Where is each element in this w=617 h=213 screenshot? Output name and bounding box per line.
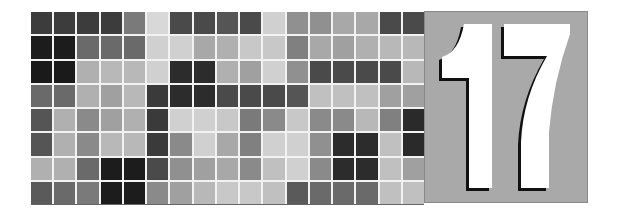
mosaic-cell [217,85,238,107]
mosaic-cell [356,12,377,34]
mosaic-cell [170,182,191,204]
mosaic-cell [240,85,261,107]
mosaic-cell [217,158,238,180]
mosaic-cell [333,61,354,83]
mosaic-cell [217,182,238,204]
mosaic-cell [217,61,238,83]
mosaic-cell [240,158,261,180]
mosaic-cell [217,36,238,58]
mosaic-cell [310,36,331,58]
mosaic-cell [77,36,98,58]
mosaic-cell [287,133,308,155]
mosaic-cell [194,36,215,58]
mosaic-cell [403,61,424,83]
mosaic-cell [240,36,261,58]
mosaic-cell [287,85,308,107]
mosaic-cell [147,109,168,131]
mosaic-cell [310,182,331,204]
mosaic-cell [263,133,284,155]
mosaic-cell [263,85,284,107]
mosaic-cell [380,12,401,34]
mosaic-cell [194,109,215,131]
mosaic-cell [147,182,168,204]
mosaic-cell [356,133,377,155]
mosaic-cell [194,85,215,107]
mosaic-cell [124,158,145,180]
mosaic-cell [77,12,98,34]
mosaic-cell [124,85,145,107]
mosaic-cell [333,85,354,107]
mosaic-cell [194,12,215,34]
mosaic-cell [287,182,308,204]
mosaic-cell [194,182,215,204]
mosaic-cell [287,158,308,180]
mosaic-cell [101,182,122,204]
mosaic-cell [217,12,238,34]
mosaic-cell [77,109,98,131]
mosaic-cell [77,133,98,155]
mosaic-cell [147,85,168,107]
mosaic-cell [170,36,191,58]
mosaic-cell [101,85,122,107]
mosaic-cell [263,61,284,83]
mosaic-cell [124,61,145,83]
mosaic-cell [356,158,377,180]
mosaic-cell [54,85,75,107]
mosaic-cell [147,61,168,83]
mosaic-cell [101,133,122,155]
mosaic-cell [170,85,191,107]
mosaic-cell [333,182,354,204]
mosaic-cell [101,36,122,58]
mosaic-cell [77,158,98,180]
mosaic-cell [287,109,308,131]
mosaic-cell [31,12,52,34]
mosaic-cell [380,61,401,83]
mosaic-cell [403,109,424,131]
mosaic-cell [240,61,261,83]
mosaic-cell [310,12,331,34]
digit-seven [504,24,570,188]
mosaic-cell [287,61,308,83]
mosaic-cell [217,133,238,155]
mosaic-cell [240,12,261,34]
mosaic-cell [124,182,145,204]
mosaic-cell [310,85,331,107]
mosaic-cell [333,109,354,131]
mosaic-cell [54,61,75,83]
mosaic-cell [31,109,52,131]
mosaic-cell [101,61,122,83]
mosaic-cell [194,133,215,155]
mosaic-cell [333,133,354,155]
mosaic-cell [380,182,401,204]
chapter-number-graphic: 17 [425,12,589,204]
mosaic-cell [403,85,424,107]
mosaic-cell [54,182,75,204]
mosaic-cell [124,133,145,155]
mosaic-cell [356,182,377,204]
mosaic-cell [356,85,377,107]
mosaic-cell [287,36,308,58]
mosaic-cell [54,158,75,180]
mosaic-cell [333,36,354,58]
mosaic-cell [31,36,52,58]
mosaic-cell [54,109,75,131]
mosaic-cell [194,61,215,83]
mosaic-cell [403,182,424,204]
mosaic-cell [170,133,191,155]
mosaic-cell [240,133,261,155]
mosaic-cell [403,12,424,34]
mosaic-cell [77,182,98,204]
mosaic-cell [147,133,168,155]
mosaic-cell [333,158,354,180]
mosaic-cell [380,85,401,107]
mosaic-cell [194,158,215,180]
mosaic-cell [31,61,52,83]
mosaic-cell [170,12,191,34]
mosaic-cell [263,158,284,180]
mosaic-cell [170,61,191,83]
mosaic-cell [403,36,424,58]
mosaic-cell [31,85,52,107]
mosaic-cell [287,12,308,34]
gray-mosaic-grid [31,12,424,205]
mosaic-cell [124,109,145,131]
